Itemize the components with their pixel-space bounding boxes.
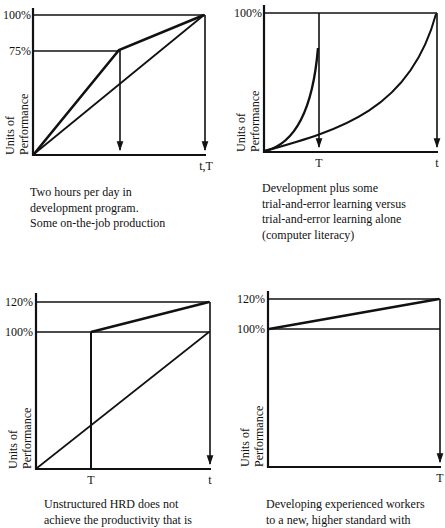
caption-panel-3: Unstructured HRD does not achieve the pr…: [44, 497, 192, 528]
tick-p2-100: 100%: [234, 6, 262, 20]
tick-p4-100: 100%: [237, 322, 265, 336]
caption-line: achieve the productivity that is: [44, 513, 192, 528]
caption-line: development program.: [30, 201, 165, 217]
caption-line: Unstructured HRD does not: [44, 497, 192, 513]
caption-line: Developing experienced workers: [266, 497, 425, 513]
ylabel-p1-line1: Units of: [3, 116, 17, 155]
series-development-plus-trial: [265, 48, 318, 151]
series-linear-path: [34, 15, 204, 154]
caption-panel-2: Development plus some trial-and-error le…: [262, 181, 406, 243]
tick-p1-75: 75%: [9, 44, 31, 58]
ylabel-p3-line2: Performance: [20, 408, 34, 469]
tick-p3-100: 100%: [5, 325, 33, 339]
panel-4: [267, 291, 441, 468]
tick-p1-x: t,T: [199, 159, 213, 173]
series-trial-alone: [265, 14, 436, 151]
tick-p4-T: T: [436, 471, 444, 485]
tick-p2-t: t: [435, 156, 439, 170]
tick-p3-t: t: [208, 473, 212, 487]
ylabel-p1-line2: Performance: [17, 94, 31, 155]
caption-line: trial-and-error learning alone: [262, 212, 406, 228]
series-structured-hrd: [91, 302, 209, 332]
caption-line: to a new, higher standard with: [266, 513, 425, 528]
panel-3: [35, 293, 211, 470]
series-unstructured-hrd: [37, 332, 209, 468]
tick-p3-T: T: [87, 473, 95, 487]
tick-p3-120: 120%: [5, 295, 33, 309]
series-higher-standard: [269, 299, 439, 329]
caption-line: trial-and-error learning versus: [262, 197, 406, 213]
ylabel-p4-line2: Performance: [252, 406, 266, 467]
ylabel-p3-line1: Units of: [6, 430, 20, 469]
caption-line: Two hours per day in: [30, 185, 165, 201]
caption-line: Some on-the-job production: [30, 216, 165, 232]
caption-panel-1: Two hours per day in development program…: [30, 185, 165, 232]
tick-p4-120: 120%: [237, 292, 265, 306]
caption-line: Development plus some: [262, 181, 406, 197]
tick-p2-T: T: [315, 156, 323, 170]
caption-line: (computer literacy): [262, 228, 406, 244]
panel-1: [32, 8, 206, 156]
panel-2: [263, 5, 438, 153]
ylabel-p4-line1: Units of: [238, 428, 252, 467]
caption-panel-4: Developing experienced workers to a new,…: [266, 497, 425, 528]
ylabel-p2-line1: Units of: [234, 113, 248, 152]
tick-p1-100: 100%: [3, 8, 31, 22]
ylabel-p2-line2: Performance: [248, 91, 262, 152]
